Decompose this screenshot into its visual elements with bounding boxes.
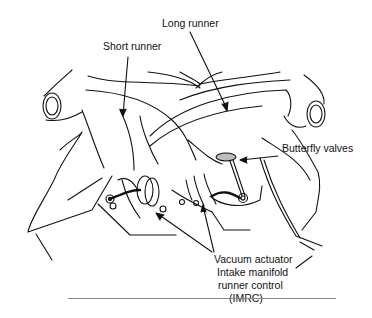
label-vacuum-actuator: Vacuum actuator bbox=[214, 253, 364, 266]
label-short-runner: Short runner bbox=[103, 40, 161, 53]
left-port bbox=[43, 70, 82, 121]
label-imrc-line2: runner control bbox=[214, 279, 364, 292]
label-long-runner: Long runner bbox=[162, 17, 219, 30]
label-butterfly-valves: Butterfly valves bbox=[282, 142, 353, 155]
label-imrc-line1: Intake manifold bbox=[214, 266, 364, 279]
vacuum-actuator-left bbox=[106, 176, 166, 218]
bottom-rule bbox=[68, 298, 336, 299]
